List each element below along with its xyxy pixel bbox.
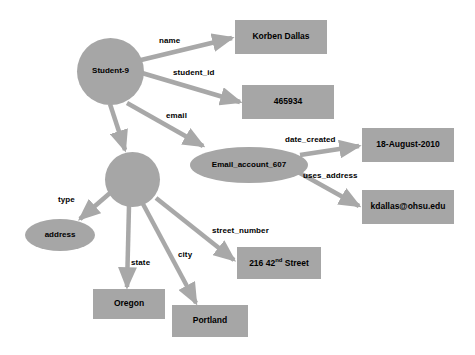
node-name_val[interactable]: Korben Dallas [235, 20, 327, 54]
diagram-canvas: Student-9Korben Dallas465934Email_accoun… [0, 0, 475, 355]
edge-label-e-state: state [131, 258, 150, 267]
edge-label-e-date_created: date_created [285, 135, 336, 144]
node-type_val[interactable]: address [25, 219, 95, 251]
edge-e-student_id [142, 73, 240, 102]
edge-label-e-name: name [159, 36, 180, 45]
edge-e-type [80, 193, 110, 219]
node-label-name_val: Korben Dallas [252, 32, 309, 41]
node-emailaddr_val[interactable]: kdallas@ohsu.edu [362, 190, 454, 224]
node-state_val[interactable]: Oregon [93, 289, 165, 319]
edge-label-e-street_number: street_number [212, 226, 269, 235]
node-label-emailaddr_val: kdallas@ohsu.edu [371, 202, 446, 211]
node-label-type_val: address [45, 231, 76, 240]
node-sid_val[interactable]: 465934 [242, 85, 334, 119]
node-label-email_acct: Email_account_607 [212, 161, 286, 170]
edge-e-date_created [300, 146, 359, 155]
node-email_acct[interactable]: Email_account_607 [190, 147, 308, 183]
node-label-city_val: Portland [193, 316, 227, 325]
edge-label-e-email: email [166, 111, 187, 120]
node-student[interactable]: Student-9 [77, 38, 144, 105]
edge-e-email [127, 103, 203, 146]
node-city_val[interactable]: Portland [172, 305, 248, 337]
node-addr_node[interactable] [105, 152, 160, 207]
edge-label-e-uses_address: uses_address [303, 171, 358, 180]
node-label-state_val: Oregon [114, 299, 144, 308]
edge-label-e-city: city [178, 250, 192, 259]
edge-e-address [110, 104, 125, 150]
node-label-date_val: 18-August-2010 [376, 140, 439, 149]
node-street_val[interactable]: 216 42nd Street [237, 247, 321, 279]
node-label-sid_val: 465934 [274, 97, 302, 106]
node-date_val[interactable]: 18-August-2010 [362, 128, 454, 162]
node-label-student: Student-9 [92, 67, 129, 76]
node-label-street_val: 216 42nd Street [249, 257, 309, 268]
edge-e-state [127, 206, 129, 287]
edge-label-e-student_id: student_id [173, 68, 214, 77]
edge-label-e-type: type [58, 195, 75, 204]
edge-e-name [141, 38, 232, 60]
